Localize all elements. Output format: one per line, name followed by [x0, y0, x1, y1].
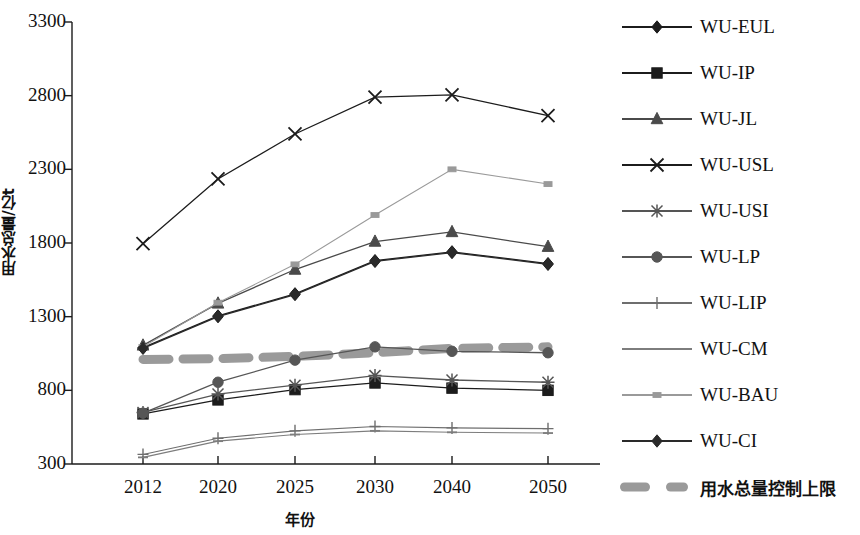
small-square-marker	[618, 383, 696, 407]
legend-item-wu-lip[interactable]: WU-LIP	[618, 290, 766, 316]
chart-legend: WU-EULWU-IPWU-JLWU-USLWU-USIWU-LPWU-LIPW…	[618, 0, 860, 535]
legend-item-label: WU-USL	[696, 154, 774, 176]
x-axis-title: 年份	[0, 508, 600, 529]
legend-item-label: WU-CI	[696, 430, 757, 452]
legend-item-wu-cm[interactable]: WU-CM	[618, 336, 768, 362]
triangle-marker	[618, 107, 696, 131]
legend-marker-glyph	[618, 245, 696, 269]
legend-item-label: WU-LP	[696, 246, 760, 268]
legend-item-label: WU-JL	[696, 108, 757, 130]
legend-item-wu-jl[interactable]: WU-JL	[618, 106, 757, 132]
legend-item-label: WU-CM	[696, 338, 768, 360]
legend-item-wu-eul[interactable]: WU-EUL	[618, 14, 775, 40]
limit-dash-segment-1	[620, 483, 650, 492]
y-axis-tick: 2300	[0, 157, 66, 179]
legend-item-wu-ci[interactable]: WU-CI	[618, 428, 757, 454]
legend-item-label: 用水总量控制上限	[696, 475, 836, 500]
x-axis-tick: 2040	[412, 476, 492, 498]
legend-item-label: WU-BAU	[696, 384, 778, 406]
y-axis-tick: 1800	[0, 231, 66, 253]
legend-item-label: WU-USI	[696, 200, 769, 222]
legend-item-wu-usl[interactable]: WU-USL	[618, 152, 774, 178]
plot-area	[0, 0, 620, 535]
asterisk-marker	[618, 199, 696, 223]
legend-item-wu-lp[interactable]: WU-LP	[618, 244, 760, 270]
legend-item-wu-usi[interactable]: WU-USI	[618, 198, 769, 224]
line-chart-canvas	[0, 0, 620, 535]
plus-marker	[618, 291, 696, 315]
legend-marker-glyph	[618, 337, 696, 361]
y-axis-tick: 300	[0, 452, 66, 474]
legend-marker-glyph	[618, 199, 696, 223]
thick-dashed-marker	[618, 475, 696, 499]
legend-item-wu-ip[interactable]: WU-IP	[618, 60, 755, 86]
circle-marker	[618, 245, 696, 269]
legend-marker-glyph	[618, 61, 696, 85]
legend-marker-glyph	[618, 383, 696, 407]
legend-item-label: WU-LIP	[696, 292, 766, 314]
y-axis-tick: 800	[0, 378, 66, 400]
y-axis-tick: 3300	[0, 10, 66, 32]
y-axis-tick: 1300	[0, 305, 66, 327]
legend-marker-glyph	[618, 107, 696, 131]
x-marker	[618, 153, 696, 177]
y-axis-tick: 2800	[0, 84, 66, 106]
dash-marker	[618, 337, 696, 361]
legend-marker-glyph	[618, 153, 696, 177]
square-marker	[618, 61, 696, 85]
chart-root: 用水总量/亿t 年份 30080013001800230028003300 20…	[0, 0, 860, 535]
diamond-marker	[618, 15, 696, 39]
legend-item-label: WU-IP	[696, 62, 755, 84]
x-axis-tick: 2012	[103, 476, 183, 498]
x-axis-tick: 2020	[178, 476, 258, 498]
x-axis-tick: 2030	[335, 476, 415, 498]
x-axis-tick: 2050	[508, 476, 588, 498]
legend-item-limit[interactable]: 用水总量控制上限	[618, 474, 836, 500]
x-axis-tick: 2025	[255, 476, 335, 498]
legend-item-wu-bau[interactable]: WU-BAU	[618, 382, 778, 408]
legend-marker-glyph	[618, 291, 696, 315]
legend-marker-glyph	[618, 429, 696, 453]
limit-dash-segment-2	[666, 483, 688, 492]
legend-marker-glyph	[618, 15, 696, 39]
legend-item-label: WU-EUL	[696, 16, 775, 38]
diamond-marker	[618, 429, 696, 453]
